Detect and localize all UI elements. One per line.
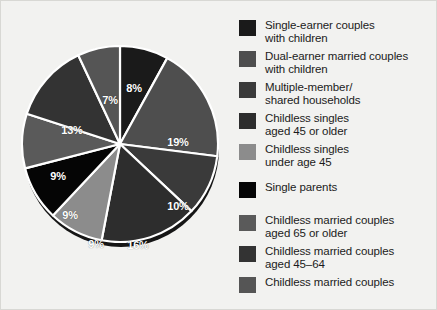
legend-item[interactable]: Multiple-member/ shared households <box>239 81 360 107</box>
legend-item[interactable]: Dual-earner married couples with childre… <box>239 50 408 76</box>
pie-slice-label: 9% <box>50 170 66 182</box>
legend-item-label: Childless singles under age 45 <box>265 143 349 169</box>
legend-item-label: Childless married couples <box>265 276 394 289</box>
legend-item-label: Childless married couples aged 65 or old… <box>265 214 394 240</box>
pie-slice-label: 16% <box>127 239 148 251</box>
pie-chart-figure: 8%19%10%16%9%9%9%13%7% Single-earner cou… <box>0 0 437 310</box>
legend-color-swatch <box>239 20 256 36</box>
legend-item[interactable]: Single-earner couples with children <box>239 19 375 45</box>
pie-slice-label: 19% <box>167 136 188 148</box>
pie-slice-label: 9% <box>88 238 104 250</box>
legend-color-swatch <box>239 246 256 262</box>
legend-color-swatch <box>239 215 256 231</box>
legend-color-swatch <box>239 277 256 293</box>
pie-slice-label: 13% <box>61 124 82 136</box>
legend-item-label: Childless singles aged 45 or older <box>265 112 349 138</box>
pie-slice-label: 7% <box>102 94 118 106</box>
legend-color-swatch <box>239 82 256 98</box>
legend-item-label: Childless married couples aged 45–64 <box>265 245 394 271</box>
pie-slice-label: 8% <box>126 82 142 94</box>
pie-slice-label: 9% <box>62 209 78 221</box>
legend-item[interactable]: Childless singles aged 45 or older <box>239 112 349 138</box>
legend-item-label: Single parents <box>265 181 337 194</box>
pie-chart-plot-area: 8%19%10%16%9%9%9%13%7% <box>15 25 231 287</box>
pie-chart-svg <box>21 45 219 243</box>
pie-slice-label: 10% <box>167 200 188 212</box>
legend-item-label: Dual-earner married couples with childre… <box>265 50 408 76</box>
legend-item-label: Single-earner couples with children <box>265 19 375 45</box>
legend-item[interactable]: Childless married couples aged 45–64 <box>239 245 394 271</box>
legend-color-swatch <box>239 182 256 198</box>
legend-item[interactable]: Childless singles under age 45 <box>239 143 349 169</box>
legend-color-swatch <box>239 113 256 129</box>
legend-item[interactable]: Childless married couples aged 65 or old… <box>239 214 394 240</box>
legend-color-swatch <box>239 51 256 67</box>
legend-item[interactable]: Childless married couples <box>239 276 394 293</box>
legend-item-label: Multiple-member/ shared households <box>265 81 360 107</box>
legend-color-swatch <box>239 144 256 160</box>
legend-item[interactable]: Single parents <box>239 181 337 198</box>
